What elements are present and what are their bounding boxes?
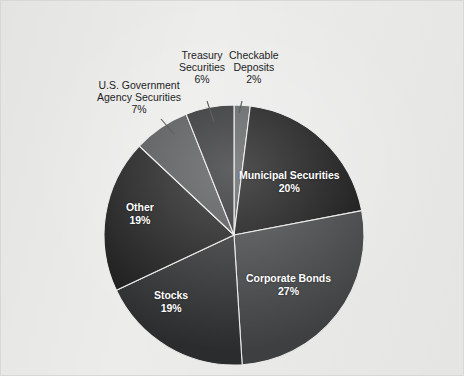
slice-label-stocks: Stocks 19% [154, 289, 188, 314]
pie-slice-group [104, 105, 364, 365]
slice-label-value: 2% [229, 73, 279, 85]
slice-label-treasury-securities: Treasury Securities 6% [179, 49, 225, 85]
slice-label-value: 7% [97, 103, 181, 115]
slice-label-name-line1: Checkable [229, 49, 279, 61]
slice-label-name: Other [126, 201, 154, 214]
slice-label-value: 27% [246, 285, 331, 298]
slice-label-checkable-deposits: Checkable Deposits 2% [229, 49, 279, 85]
slice-label-us-government-agency-securities: U.S. Government Agency Securities 7% [97, 79, 181, 115]
slice-label-name-line1: Treasury [179, 49, 225, 61]
slice-label-name-line2: Deposits [229, 61, 279, 73]
slice-label-municipal-securities: Municipal Securities 20% [239, 169, 340, 194]
slice-label-name: Stocks [154, 289, 188, 302]
slice-label-value: 20% [239, 182, 340, 195]
slice-label-name-line1: U.S. Government [97, 79, 181, 91]
slice-label-name: Corporate Bonds [246, 272, 331, 285]
slice-label-corporate-bonds: Corporate Bonds 27% [246, 272, 331, 297]
slice-label-value: 19% [126, 214, 154, 227]
slice-label-name-line2: Agency Securities [97, 91, 181, 103]
slice-label-other: Other 19% [126, 201, 154, 226]
slice-label-value: 19% [154, 302, 188, 315]
slice-label-name: Municipal Securities [239, 169, 340, 182]
pie-chart-figure: Municipal Securities 20% Corporate Bonds… [0, 0, 464, 376]
slice-label-value: 6% [179, 73, 225, 85]
slice-label-name-line2: Securities [179, 61, 225, 73]
